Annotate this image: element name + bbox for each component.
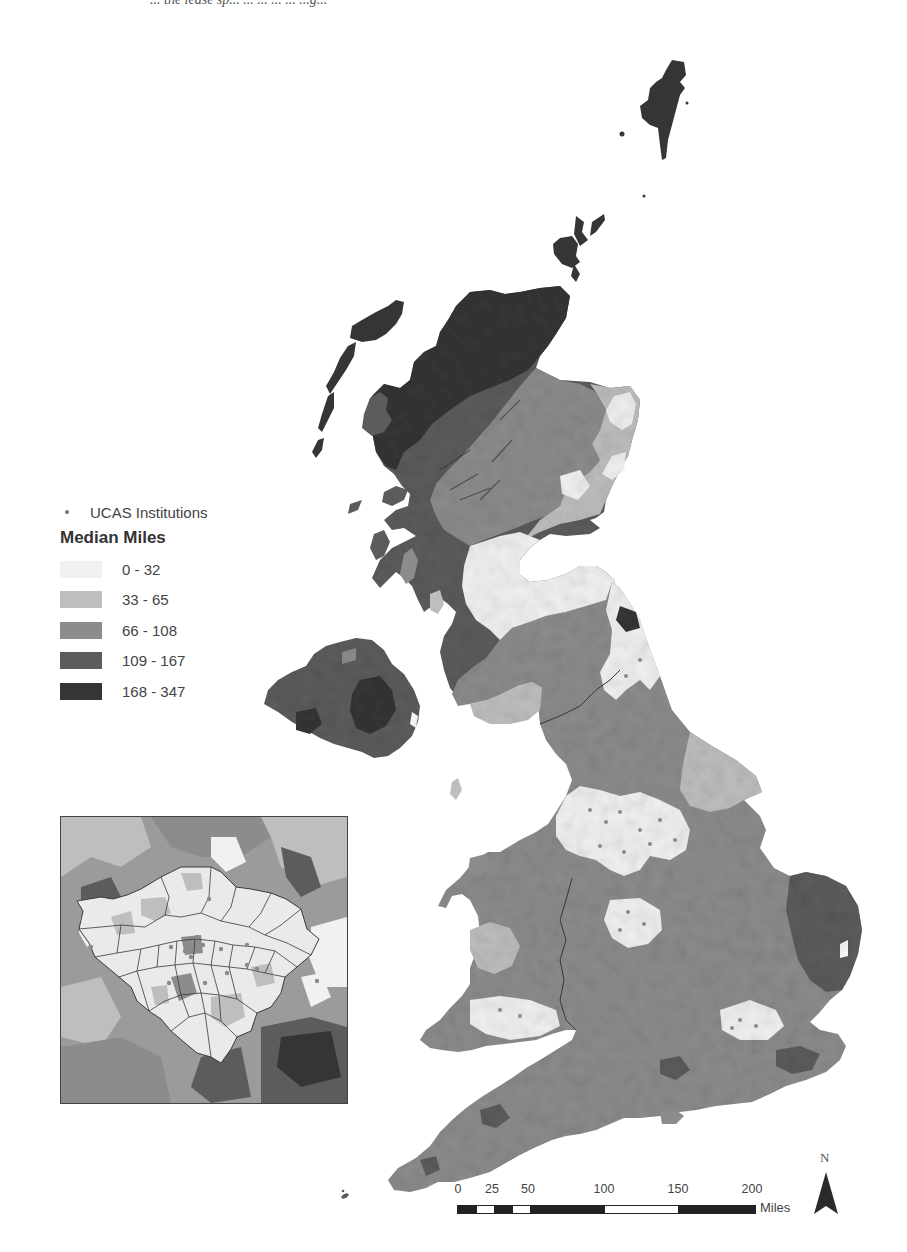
scale-seg [513,1206,530,1213]
isle-of-wight [660,1110,684,1124]
legend-ucas-institutions: • UCAS Institutions [60,500,260,524]
northern-ireland [264,638,420,758]
legend-swatch [60,622,102,639]
legend-class-0: 0 - 32 [60,554,260,585]
london-inset-map [60,816,348,1104]
north-arrow: N [806,1150,846,1220]
scale-tick-150: 150 [668,1182,689,1196]
shetland-islands [620,60,689,198]
scale-tick-200: 200 [742,1182,763,1196]
scale-seg [678,1206,755,1213]
london-inset-svg [61,817,347,1103]
scale-tick-50: 50 [521,1182,535,1196]
legend-class-1: 33 - 65 [60,585,260,616]
legend-point-label: UCAS Institutions [90,504,208,521]
scale-seg [458,1206,477,1213]
orkney-islands [553,214,605,282]
scale-seg [530,1206,605,1213]
legend-swatch [60,561,102,578]
legend-class-label: 66 - 108 [122,622,177,639]
legend-class-label: 168 - 347 [122,683,185,700]
isles-of-scilly [341,1190,350,1200]
scale-seg [477,1206,494,1213]
legend-swatch [60,683,102,700]
point-symbol-icon: • [60,504,74,520]
legend-class-4: 168 - 347 [60,676,260,707]
scale-tick-25: 25 [485,1182,499,1196]
map-legend: • UCAS Institutions Median Miles 0 - 32 … [60,500,260,707]
legend-swatch [60,591,102,608]
scale-seg [605,1206,678,1213]
legend-title: Median Miles [60,528,260,554]
legend-class-label: 109 - 167 [122,652,185,669]
scale-tick-0: 0 [455,1182,462,1196]
scale-bar-graphic [457,1205,756,1214]
scale-tick-100: 100 [594,1182,615,1196]
legend-class-label: 0 - 32 [122,561,160,578]
legend-class-label: 33 - 65 [122,591,169,608]
scale-units: Miles [760,1200,790,1215]
legend-class-2: 66 - 108 [60,615,260,646]
legend-class-3: 109 - 167 [60,646,260,677]
scale-bar: 0 25 50 100 150 200 Miles [450,1182,810,1222]
legend-swatch [60,652,102,669]
scale-seg [494,1206,513,1213]
isle-of-man [450,778,462,800]
north-arrow-icon [806,1150,846,1220]
